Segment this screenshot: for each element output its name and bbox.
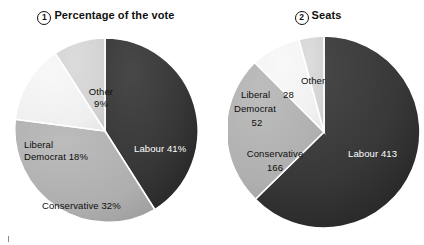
pie-2-svg: [228, 36, 420, 228]
election-pie-figure: 1Percentage of the vote: [0, 0, 424, 245]
panel-2-title: 2Seats: [212, 9, 424, 25]
label-labour-percentage: Labour 41%: [134, 143, 208, 155]
panel-1-number: 1: [37, 11, 51, 25]
label-other-name-seats: Other: [301, 75, 347, 87]
label-conservative-name-seats: Conservative: [229, 148, 321, 160]
label-liberal-democrat-percentage: Liberal Democrat 18%: [24, 139, 116, 162]
pie-chart-percentage: Other 9% Liberal Democrat 18% Conservati…: [12, 38, 198, 224]
label-libdem-line1-seats: Liberal: [241, 89, 283, 101]
label-libdem-line2-seats: Democrat: [234, 103, 294, 115]
panel-1-title: 1Percentage of the vote: [0, 9, 212, 25]
label-libdem-value-seats: 52: [247, 117, 267, 129]
label-other-value-1: 9%: [78, 98, 124, 110]
label-labour-seats: Labour 413: [348, 148, 424, 160]
panel-percentage-of-the-vote: 1Percentage of the vote: [0, 0, 212, 245]
label-other-percentage: Other 9%: [78, 86, 124, 109]
panel-2-number: 2: [295, 11, 309, 25]
panel-seats: 2Seats: [212, 0, 424, 245]
pie-chart-seats: Other 28 Liberal Democrat 52 Conservativ…: [228, 36, 420, 228]
label-other-value-seats: 28: [283, 89, 303, 101]
label-other-name-1: Other: [78, 86, 124, 98]
label-libdem-line2-1: Democrat 18%: [24, 151, 116, 163]
label-conservative-percentage: Conservative 32%: [42, 200, 152, 212]
corner-tick-mark: [8, 236, 9, 242]
pie-1-svg: [12, 38, 198, 224]
panel-1-title-text: Percentage of the vote: [54, 9, 174, 21]
panel-2-title-text: Seats: [312, 9, 342, 21]
label-libdem-line1-1: Liberal: [24, 139, 116, 151]
label-conservative-value-seats: 166: [229, 162, 321, 174]
